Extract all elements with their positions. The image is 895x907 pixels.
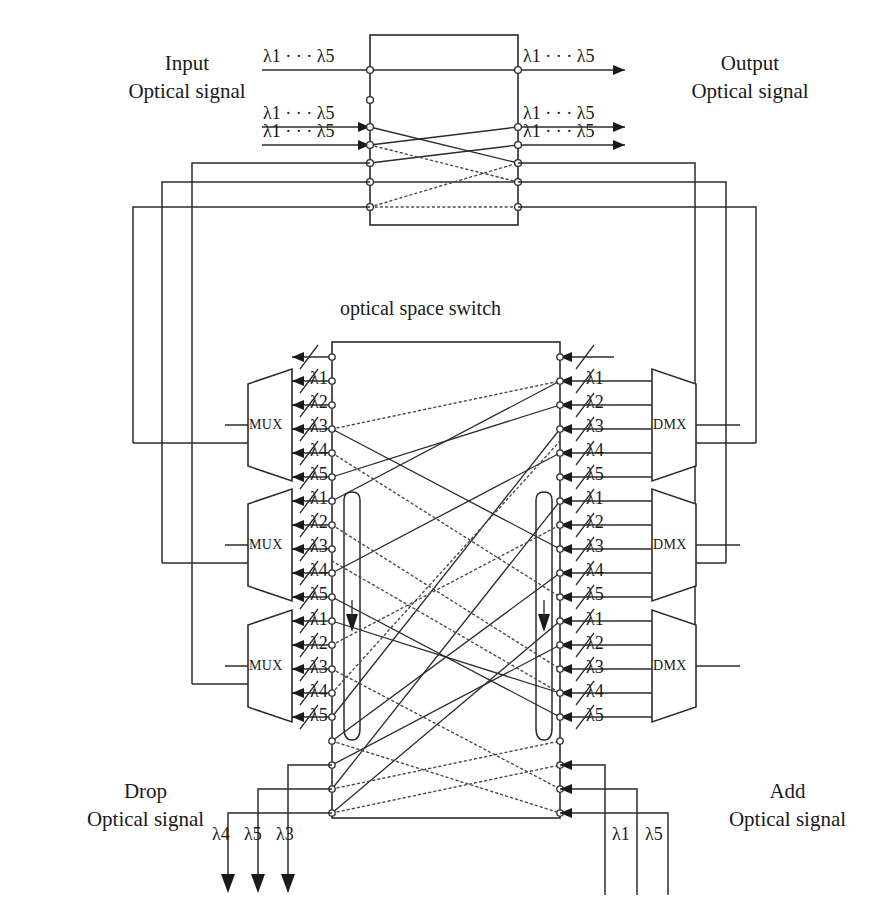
drop-lambda-2: λ5 <box>244 825 262 843</box>
drop-lambda-1: λ4 <box>212 825 230 843</box>
channel-label-left-g1-2: λ2 <box>310 393 328 411</box>
drop-label-line1: Drop <box>58 778 233 806</box>
channel-label-right-g3-2: λ2 <box>586 634 604 652</box>
add-label-line2: Optical signal <box>700 806 875 834</box>
channel-label-right-g2-1: λ1 <box>586 489 604 507</box>
output-label-line1: Output <box>660 50 840 78</box>
channel-label-left-g2-3: λ3 <box>310 537 328 555</box>
channel-label-left-g1-1: λ1 <box>310 369 328 387</box>
add-lambda-1: λ1 <box>612 825 630 843</box>
output-signal-label: Output Optical signal <box>660 50 840 105</box>
channel-label-left-g2-2: λ2 <box>310 513 328 531</box>
input-group-label-3: λ1 · · · λ5 <box>263 122 334 140</box>
channel-label-right-g2-4: λ4 <box>586 561 604 579</box>
input-signal-label: Input Optical signal <box>112 50 262 105</box>
input-label-line1: Input <box>112 50 262 78</box>
channel-label-left-g1-5: λ5 <box>310 465 328 483</box>
channel-label-left-g1-4: λ4 <box>310 441 328 459</box>
add-lambda-2: λ5 <box>645 825 663 843</box>
output-group-label-1: λ1 · · · λ5 <box>523 47 594 65</box>
channel-label-left-g2-5: λ5 <box>310 585 328 603</box>
dmx-label-3: DMX <box>653 658 687 674</box>
drop-label-line2: Optical signal <box>58 806 233 834</box>
channel-label-right-g1-4: λ4 <box>586 441 604 459</box>
channel-label-right-g1-2: λ2 <box>586 393 604 411</box>
channel-label-right-g3-4: λ4 <box>586 682 604 700</box>
output-label-line2: Optical signal <box>660 78 840 106</box>
channel-label-left-g2-4: λ4 <box>310 561 328 579</box>
channel-label-left-g3-5: λ5 <box>310 706 328 724</box>
channel-label-left-g3-1: λ1 <box>310 610 328 628</box>
channel-label-right-g3-5: λ5 <box>586 706 604 724</box>
input-label-line2: Optical signal <box>112 78 262 106</box>
channel-label-left-g2-1: λ1 <box>310 489 328 507</box>
channel-label-left-g3-3: λ3 <box>310 658 328 676</box>
output-group-label-3: λ1 · · · λ5 <box>523 122 594 140</box>
channel-label-right-g3-3: λ3 <box>586 658 604 676</box>
dmx-label-2: DMX <box>653 537 687 553</box>
add-label-line1: Add <box>700 778 875 806</box>
channel-label-right-g1-1: λ1 <box>586 369 604 387</box>
optical-switch-schematic <box>0 0 895 907</box>
channel-label-right-g3-1: λ1 <box>586 610 604 628</box>
channel-label-left-g1-3: λ3 <box>310 417 328 435</box>
drop-lambda-3: λ3 <box>276 825 294 843</box>
mux-label-3: MUX <box>249 658 283 674</box>
dmx-label-1: DMX <box>653 417 687 433</box>
channel-label-left-g3-4: λ4 <box>310 682 328 700</box>
mux-label-1: MUX <box>249 417 283 433</box>
output-group-label-2: λ1 · · · λ5 <box>523 104 594 122</box>
mux-label-2: MUX <box>249 537 283 553</box>
add-signal-label: Add Optical signal <box>700 778 875 833</box>
right-channel-stubs <box>560 352 652 722</box>
channel-label-left-g3-2: λ2 <box>310 634 328 652</box>
channel-label-right-g2-5: λ5 <box>586 585 604 603</box>
center-title: optical space switch <box>340 295 501 321</box>
channel-label-right-g2-2: λ2 <box>586 513 604 531</box>
drop-signal-label: Drop Optical signal <box>58 778 233 833</box>
channel-label-right-g2-3: λ3 <box>586 537 604 555</box>
channel-label-right-g1-5: λ5 <box>586 465 604 483</box>
channel-label-right-g1-3: λ3 <box>586 417 604 435</box>
diagram-canvas: Input Optical signal Output Optical sign… <box>0 0 895 907</box>
input-group-label-2: λ1 · · · λ5 <box>263 104 334 122</box>
input-group-label-1: λ1 · · · λ5 <box>263 47 334 65</box>
